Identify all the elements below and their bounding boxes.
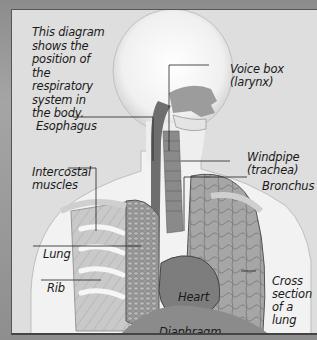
label-esophagus: Esophagus	[36, 120, 97, 133]
label-intercostal-muscles: Intercostal muscles	[32, 166, 91, 192]
label-windpipe: Windpipe (trachea)	[247, 151, 299, 177]
diagram-panel: This diagram shows the position of the r…	[11, 9, 317, 335]
label-diaphragm: Diaphragm	[159, 326, 221, 335]
label-cross-section: Cross section of a lung	[272, 275, 317, 327]
intro-caption: This diagram shows the position of the r…	[32, 26, 112, 121]
label-lung: Lung	[43, 248, 70, 261]
label-voice-box: Voice box (larynx)	[230, 63, 284, 89]
label-rib: Rib	[47, 282, 65, 295]
label-bronchus: Bronchus	[262, 180, 314, 193]
label-heart: Heart	[178, 291, 209, 304]
